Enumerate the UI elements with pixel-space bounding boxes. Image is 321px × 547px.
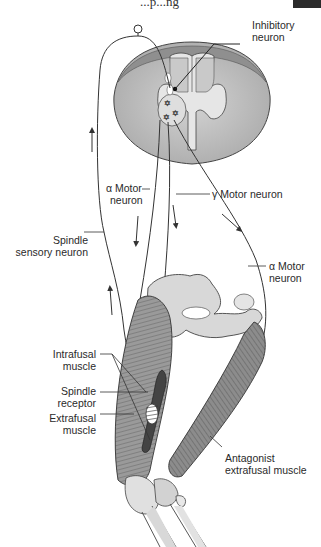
label-spindle-sensory-neuron: Spindle sensory neuron bbox=[8, 234, 88, 258]
dorsal-root-ganglion bbox=[134, 25, 142, 33]
spinal-cord: ✡ ✡ ✡ bbox=[114, 42, 270, 164]
label-spindle-receptor: Spindle receptor bbox=[30, 385, 96, 409]
knee-bones bbox=[125, 476, 206, 547]
label-antagonist-extrafusal-muscle: Antagonist extrafusal muscle bbox=[225, 452, 307, 476]
stretch-reflex-diagram: ...p...ng bbox=[0, 0, 321, 547]
label-alpha-motor-neuron-right: α Motor neuron bbox=[269, 260, 305, 284]
label-gamma-motor-neuron: γ Motor neuron bbox=[212, 188, 283, 200]
label-intrafusal-muscle: Intrafusal muscle bbox=[30, 348, 96, 372]
svg-text:✡: ✡ bbox=[164, 99, 171, 108]
label-extrafusal-muscle: Extrafusal muscle bbox=[30, 412, 96, 436]
label-inhibitory-neuron: Inhibitory neuron bbox=[252, 19, 295, 43]
svg-text:✡: ✡ bbox=[163, 113, 170, 122]
label-alpha-motor-neuron-left: α Motor neuron bbox=[106, 182, 143, 206]
svg-text:✡: ✡ bbox=[172, 109, 179, 118]
